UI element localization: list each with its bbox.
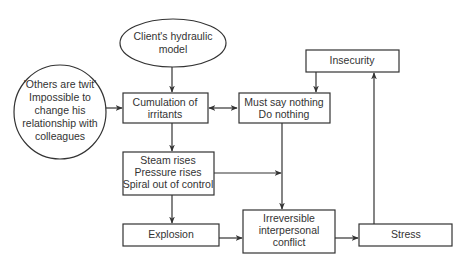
node-others-twit-line-2: Impossible to xyxy=(29,91,91,103)
node-steam-rises-line-3: Spiral out of control xyxy=(123,178,213,190)
node-insecurity-line-1: Insecurity xyxy=(330,54,376,66)
node-must-say-nothing: Must say nothing Do nothing xyxy=(239,93,330,123)
node-insecurity: Insecurity xyxy=(306,50,399,72)
node-steam-rises: Steam rises Pressure rises Spiral out of… xyxy=(123,152,214,195)
node-irreversible-conflict: Irreversible interpersonal conflict xyxy=(243,210,335,253)
node-others-twit-line-3: change his xyxy=(35,104,86,116)
node-others-twit-line-5: colleagues xyxy=(35,130,85,142)
flow-diagram: Client's hydraulic model 'Others are twi… xyxy=(0,0,466,265)
node-client-model-line-1: Client's hydraulic xyxy=(133,30,212,42)
node-client-model-line-2: model xyxy=(159,43,188,55)
node-steam-rises-line-2: Pressure rises xyxy=(134,166,201,178)
node-must-say-nothing-line-1: Must say nothing xyxy=(244,96,324,108)
node-irreversible-conflict-line-1: Irreversible xyxy=(263,212,315,224)
node-cumulation: Cumulation of irritants xyxy=(123,93,208,123)
node-stress: Stress xyxy=(359,224,452,246)
node-irreversible-conflict-line-2: interpersonal xyxy=(259,224,320,236)
node-explosion-line-1: Explosion xyxy=(148,228,194,240)
node-cumulation-line-2: irritants xyxy=(148,108,182,120)
node-irreversible-conflict-line-3: conflict xyxy=(273,236,306,248)
node-others-twit: 'Others are twit' Impossible to change h… xyxy=(14,65,106,159)
node-cumulation-line-1: Cumulation of xyxy=(133,96,198,108)
node-others-twit-line-4: relationship with xyxy=(22,117,97,129)
node-must-say-nothing-line-2: Do nothing xyxy=(259,108,310,120)
node-client-model: Client's hydraulic model xyxy=(120,19,226,67)
node-explosion: Explosion xyxy=(123,224,219,246)
node-stress-line-1: Stress xyxy=(391,228,421,240)
node-others-twit-line-1: 'Others are twit' xyxy=(24,78,96,90)
node-steam-rises-line-1: Steam rises xyxy=(140,154,195,166)
